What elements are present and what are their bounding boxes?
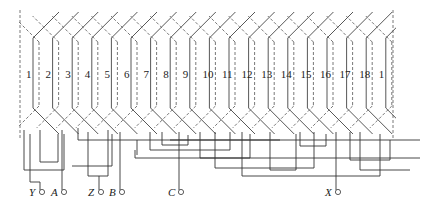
end-connection [248, 16, 274, 42]
connection-wire [350, 132, 390, 160]
end-connection [229, 16, 255, 42]
end-connection [170, 108, 196, 134]
end-connection [229, 12, 255, 38]
terminal-y-icon [39, 189, 44, 194]
terminal-label-z: Z [88, 186, 95, 198]
end-connection [111, 108, 137, 134]
end-connection [52, 16, 78, 42]
slot-number: 9 [183, 68, 189, 80]
end-connection [249, 108, 275, 134]
slot-number: 10 [202, 68, 214, 80]
end-connection [170, 16, 196, 42]
connection-wire [200, 132, 250, 158]
terminal-b-icon [119, 189, 124, 194]
end-connection [209, 108, 235, 134]
slot-number: 14 [281, 68, 293, 80]
end-connection [37, 106, 59, 128]
end-connection [193, 106, 215, 128]
end-connection [307, 12, 333, 38]
connection-wire [162, 132, 188, 145]
end-connection [327, 12, 353, 38]
slot-number: 1 [26, 68, 32, 80]
connection-wire [360, 132, 410, 170]
end-connection [53, 12, 79, 38]
end-connection [366, 108, 392, 134]
end-connection [33, 108, 59, 134]
end-connection [135, 106, 157, 128]
terminal-label-x: X [324, 186, 333, 198]
terminal-x-icon [335, 189, 340, 194]
connection-wire [242, 132, 380, 176]
connection-wire [270, 132, 296, 170]
end-connection [347, 12, 373, 38]
end-connection [154, 106, 176, 128]
end-connection [311, 106, 333, 128]
terminal-c-icon [178, 189, 183, 194]
end-connection [72, 16, 98, 42]
end-connection [53, 108, 79, 134]
end-connection [288, 108, 314, 134]
end-connection [366, 16, 392, 42]
end-connection [307, 16, 333, 42]
slot-number: 1 [379, 68, 385, 80]
slot-number: 11 [222, 68, 233, 80]
end-connection [366, 12, 392, 38]
end-connection [346, 16, 372, 42]
end-connection [213, 106, 235, 128]
end-connection [249, 12, 275, 38]
winding-diagram: 1234567891011121314151617181 YAZBCX [0, 0, 422, 220]
end-connection [386, 108, 412, 134]
end-connection [268, 12, 294, 38]
slot-number: 7 [144, 68, 150, 80]
end-connection [174, 106, 196, 128]
end-connection [76, 106, 98, 128]
end-connection [13, 16, 39, 42]
end-connection [209, 12, 235, 38]
end-connection [131, 12, 157, 38]
end-connection [350, 106, 372, 128]
end-connection [233, 106, 255, 128]
end-connection [56, 106, 78, 128]
slot-number: 4 [85, 68, 91, 80]
end-connection [386, 12, 412, 38]
connection-wire [30, 134, 40, 190]
end-connection [150, 16, 176, 42]
end-connection [252, 106, 274, 128]
terminal-group: YAZBCX [29, 186, 341, 198]
slot-number: 16 [320, 68, 332, 80]
terminal-label-a: A [50, 186, 58, 198]
slot-number: 8 [163, 68, 169, 80]
end-connection [370, 106, 392, 128]
end-connection [72, 12, 98, 38]
slot-number: 3 [65, 68, 71, 80]
end-connection [291, 106, 313, 128]
slot-number: 12 [242, 68, 253, 80]
terminal-label-b: B [109, 186, 116, 198]
terminal-z-icon [98, 189, 103, 194]
slot-number: 2 [46, 68, 52, 80]
end-connection [268, 108, 294, 134]
end-connection [131, 16, 157, 42]
end-connection [33, 16, 59, 42]
terminal-label-y: Y [29, 186, 37, 198]
slot-number: 15 [300, 68, 312, 80]
slot-number: 13 [261, 68, 273, 80]
connection-wire [300, 132, 326, 146]
end-connection [151, 12, 177, 38]
end-connection [91, 16, 117, 42]
end-connection [72, 108, 98, 134]
end-connection [288, 12, 314, 38]
connection-wire [88, 130, 108, 176]
slot-number: 17 [340, 68, 352, 80]
end-connection [209, 16, 235, 42]
end-connection [170, 12, 196, 38]
end-connection [95, 106, 117, 128]
end-connection [151, 108, 177, 134]
end-connection [327, 108, 353, 134]
end-connection [190, 108, 216, 134]
end-connection [190, 12, 216, 38]
slot-labels: 1234567891011121314151617181 [26, 68, 384, 80]
end-connection [111, 12, 137, 38]
end-connection [131, 108, 157, 134]
end-connection [331, 106, 353, 128]
